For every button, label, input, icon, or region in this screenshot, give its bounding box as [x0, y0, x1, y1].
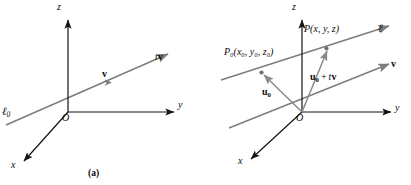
vector-u-subscript: 0 — [268, 91, 271, 98]
vector-v-label: v — [391, 59, 396, 69]
axis-y-label: y — [395, 103, 399, 113]
panel-a: z y x O ℓ0 v tv (a) — [0, 0, 205, 185]
axis-y-label: y — [178, 100, 182, 110]
line-ell-label: ℓ — [378, 23, 383, 34]
panel-a-graphics — [0, 0, 205, 185]
caption-a: (a) — [88, 168, 99, 178]
plus-sign: + — [321, 71, 327, 82]
ell-subscript: 0 — [7, 110, 11, 119]
panel-b: z y x O ℓ v P₀(x₀, y₀, z₀) P(x, y, z) u0… — [205, 0, 411, 185]
axis-x — [251, 112, 302, 159]
line-ell0-label: ℓ0 — [2, 106, 10, 119]
axis-x-label: x — [11, 160, 15, 170]
axis-z-label: z — [292, 2, 296, 12]
line-ell0 — [6, 54, 168, 125]
axis-x-label: x — [238, 156, 242, 166]
point-p-label: P(x, y, z) — [304, 24, 339, 34]
vector-u0-plus-tv-label: u0+tv — [310, 72, 336, 84]
point-p-dot — [324, 46, 328, 50]
vector-u-subscript: 0 — [316, 76, 319, 83]
vector-v-glyph: v — [158, 51, 163, 62]
origin-label: O — [296, 113, 303, 123]
point-p0-label: P₀(x₀, y₀, z₀) — [224, 47, 273, 57]
vector-v-label: v — [102, 69, 107, 79]
vector-tv-label: tv — [155, 52, 163, 62]
vector-v-glyph: v — [331, 71, 336, 82]
axis-z-label: z — [57, 2, 61, 12]
origin-label: O — [62, 113, 69, 123]
vector-line-figure: z y x O ℓ0 v tv (a) — [0, 0, 411, 185]
vector-u0-label: u0 — [262, 87, 271, 99]
point-p0-dot — [259, 70, 263, 74]
